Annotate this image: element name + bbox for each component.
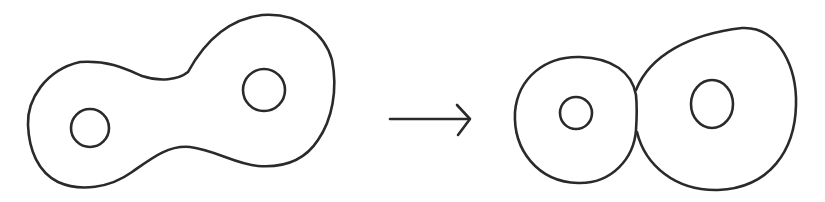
large-torus-outline [636, 28, 796, 190]
right-arrow-icon [390, 105, 470, 135]
small-torus-outline [515, 57, 637, 183]
two-tori [515, 28, 796, 190]
large-torus-hole [691, 80, 733, 128]
genus-2-outline [28, 15, 334, 188]
genus-2-surface [28, 15, 334, 188]
right-hole [243, 69, 285, 111]
small-torus-hole [560, 97, 592, 129]
left-hole [71, 109, 109, 147]
diagram-canvas [0, 0, 825, 202]
